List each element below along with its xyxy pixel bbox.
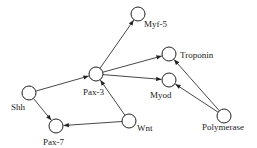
node-label: Wnt	[137, 123, 153, 133]
edge-polymerase-to-myod	[175, 84, 218, 112]
node-circle	[162, 73, 176, 87]
node-label: Myod	[150, 90, 172, 100]
node-circle	[49, 119, 63, 133]
node-shh: Shh	[11, 86, 36, 112]
gene-network-diagram: ShhPax-3Pax-7WntMyf-5TroponinMyodPolymer…	[0, 0, 257, 148]
node-polymerase: Polymerase	[202, 109, 244, 132]
node-circle	[89, 67, 103, 81]
node-myod: Myod	[150, 73, 176, 100]
edge-polymerase-to-troponin	[174, 60, 219, 111]
node-label: Troponin	[180, 50, 214, 60]
node-circle	[22, 86, 36, 100]
node-circle	[217, 109, 231, 123]
edge-pax3-to-troponin	[103, 56, 162, 72]
node-circle	[131, 7, 145, 21]
node-myf5: Myf-5	[131, 7, 167, 29]
edges-layer	[33, 20, 219, 125]
edge-shh-to-pax7	[33, 98, 51, 120]
node-troponin: Troponin	[162, 47, 214, 61]
node-circle	[122, 114, 136, 128]
node-label: Pax-7	[43, 137, 64, 147]
node-pax7: Pax-7	[43, 119, 64, 147]
node-label: Polymerase	[202, 122, 244, 132]
node-wnt: Wnt	[122, 114, 153, 133]
edge-pax3-to-myod	[103, 75, 162, 80]
edge-pax3-to-myf5	[100, 20, 134, 68]
edge-shh-to-pax3	[36, 76, 89, 91]
node-circle	[162, 47, 176, 61]
node-label: Shh	[11, 102, 26, 112]
node-label: Myf-5	[144, 19, 167, 29]
edge-wnt-to-pax3	[100, 80, 125, 115]
node-label: Pax-3	[83, 87, 104, 97]
edge-wnt-to-pax7	[64, 122, 123, 126]
